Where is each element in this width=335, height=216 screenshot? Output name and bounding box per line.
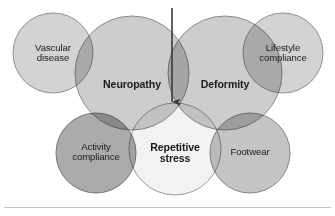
circle-footwear [210, 113, 290, 193]
bottom-divider [4, 207, 331, 208]
venn-diagram-figure: Vascular disease Lifestyle compliance Ne… [0, 0, 335, 216]
circle-layer [13, 13, 323, 195]
circle-repetitive-stress [129, 103, 221, 195]
venn-diagram-canvas [0, 0, 335, 216]
circle-activity-compliance [56, 113, 136, 193]
